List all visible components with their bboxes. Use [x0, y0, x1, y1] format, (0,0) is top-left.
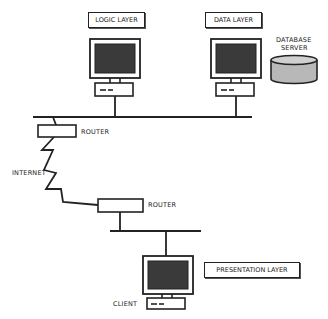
router-bottom-label: ROUTER: [148, 201, 176, 209]
data-layer-label: DATA LAYER: [205, 12, 262, 28]
presentation-layer-label: PRESENTATION LAYER: [204, 262, 300, 278]
network-diagram: LOGIC LAYER DATA LAYER DATABASE SERVER R…: [0, 0, 328, 319]
client-computer-icon: [143, 256, 193, 309]
database-server-label-line2: SERVER: [281, 44, 308, 52]
database-server-label-line1: DATABASE: [276, 36, 311, 44]
internet-link: [42, 137, 98, 205]
logic-computer-icon: [90, 39, 140, 96]
router-bottom: [98, 199, 143, 212]
data-computer-icon: [211, 39, 261, 96]
logic-layer-label: LOGIC LAYER: [88, 12, 145, 28]
database-icon: [271, 56, 317, 84]
router-top-label: ROUTER: [81, 128, 109, 136]
client-label: CLIENT: [113, 300, 137, 308]
internet-label: INTERNET: [12, 169, 46, 177]
router-top: [38, 125, 76, 137]
